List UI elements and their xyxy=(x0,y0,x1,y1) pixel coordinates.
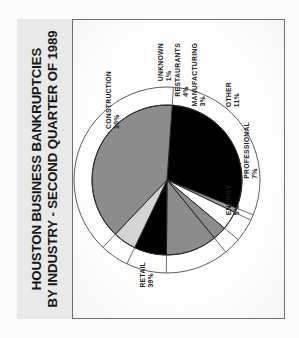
pie-chart-plot-area: CONSTRUCTION 30% UNKNOWN 1% RESTAURANTS … xyxy=(73,19,285,319)
slice-label-manufacturing-value: 3% xyxy=(199,43,207,106)
slice-label-retail-value: 39% xyxy=(147,262,155,288)
slice-label-other-value: 11% xyxy=(233,82,241,107)
slice-label-construction: CONSTRUCTION 30% xyxy=(105,71,122,129)
slice-label-retail-name: RETAIL xyxy=(139,262,147,288)
page-title: HOUSTON BUSINESS BANKRUPTCIES BY INDUSTR… xyxy=(28,23,60,315)
slice-label-professional-value: 7% xyxy=(251,122,259,179)
title-line-2: BY INDUSTRY - SECOND QUARTER OF 1989 xyxy=(45,23,61,315)
slice-label-professional: PROFESSIONAL 7% xyxy=(243,122,260,179)
title-band: HOUSTON BUSINESS BANKRUPTCIES BY INDUSTR… xyxy=(17,19,73,319)
slice-label-other: OTHER 11% xyxy=(225,82,242,107)
title-line-1: HOUSTON BUSINESS BANKRUPTCIES xyxy=(28,23,44,315)
slice-label-energy: ENERGY 5% xyxy=(225,185,242,215)
slice-label-manufacturing-name: MANUFACTURING xyxy=(191,43,199,106)
slice-label-energy-value: 5% xyxy=(233,185,241,215)
slice-label-unknown: UNKNOWN 1% xyxy=(157,43,174,81)
slice-label-professional-name: PROFESSIONAL xyxy=(243,122,251,179)
slice-label-unknown-value: 1% xyxy=(165,43,173,81)
leader-line-manufacturing xyxy=(224,228,238,240)
leader-line-other xyxy=(214,238,225,252)
slice-label-unknown-name: UNKNOWN xyxy=(157,43,165,81)
slice-label-restaurants-name: RESTAURANTS xyxy=(174,43,182,97)
leader-line-retail xyxy=(103,234,115,247)
slice-label-manufacturing: MANUFACTURING 3% xyxy=(191,43,208,106)
slice-label-retail: RETAIL 39% xyxy=(139,262,156,288)
leader-line-energy xyxy=(127,248,135,264)
slice-label-construction-value: 30% xyxy=(113,71,121,129)
slice-label-restaurants: RESTAURANTS 4% xyxy=(174,43,191,97)
slice-label-energy-name: ENERGY xyxy=(225,185,233,215)
slice-label-restaurants-value: 4% xyxy=(182,43,190,97)
slice-label-construction-name: CONSTRUCTION xyxy=(105,71,113,129)
slice-label-other-name: OTHER xyxy=(225,82,233,107)
